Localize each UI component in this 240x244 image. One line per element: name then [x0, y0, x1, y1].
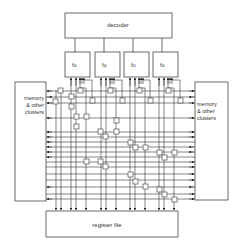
fu-label-4: fu: [160, 62, 165, 68]
functional-unit-3: [124, 52, 149, 77]
memory-right-label-line1: memory: [197, 101, 217, 107]
memory-left-label-line1: memory: [24, 95, 44, 101]
memory-left-label-line3: clusters: [25, 109, 44, 115]
functional-unit-1: [65, 52, 90, 77]
memory-right-label-line2: & other: [197, 108, 215, 114]
memory-left-label-line2: & other: [26, 102, 44, 108]
horizontal-buses: [46, 91, 195, 199]
functional-unit-2: [95, 52, 120, 77]
memory-right-label-line3: clusters: [197, 115, 216, 121]
memory-right-box: [195, 82, 228, 200]
crosspoint-switches: [53, 88, 183, 202]
fu-label-3: fu: [131, 62, 136, 68]
cluster-architecture-diagram: decoder fu fu fu fu memory & other clust…: [0, 0, 240, 244]
register-file-label: register file: [92, 222, 122, 228]
fu-label-1: fu: [72, 62, 77, 68]
decoder-label: decoder: [107, 22, 129, 28]
functional-unit-4: [153, 52, 178, 77]
fu-label-2: fu: [102, 62, 107, 68]
